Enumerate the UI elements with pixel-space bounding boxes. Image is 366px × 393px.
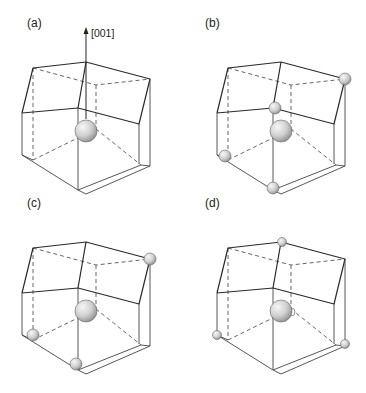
panel-label-d: (d) xyxy=(205,196,220,210)
neighbor-atom-sphere xyxy=(267,182,279,194)
central-atom-sphere xyxy=(270,120,292,142)
arrowhead-icon xyxy=(84,27,89,34)
crystal-structure-figure: (a) [001] (b) (c) (d) xyxy=(0,0,366,393)
axis-label-001: [001] xyxy=(91,27,114,39)
panel-label-a: (a) xyxy=(27,16,42,30)
panel-d: (d) xyxy=(205,196,350,374)
central-atom-sphere xyxy=(75,300,97,322)
neighbor-atom-sphere xyxy=(269,102,281,114)
neighbor-atom-sphere xyxy=(219,150,231,162)
panel-label-b: (b) xyxy=(205,16,220,30)
neighbor-atom-sphere xyxy=(27,329,39,341)
neighbor-atom-sphere xyxy=(213,331,222,340)
neighbor-atom-sphere xyxy=(341,340,350,349)
neighbor-atom-sphere xyxy=(144,253,156,265)
neighbor-atom-sphere xyxy=(339,73,351,85)
panel-b: (b) xyxy=(205,16,351,194)
neighbor-atom-sphere xyxy=(278,238,287,247)
axis-arrow-001: [001] xyxy=(84,27,115,119)
neighbor-atom-sphere xyxy=(70,358,82,370)
panel-a: (a) [001] xyxy=(22,16,150,194)
panel-c: (c) xyxy=(22,196,156,374)
panel-label-c: (c) xyxy=(27,196,41,210)
central-atom-sphere xyxy=(75,120,97,142)
central-atom-sphere xyxy=(270,300,292,322)
